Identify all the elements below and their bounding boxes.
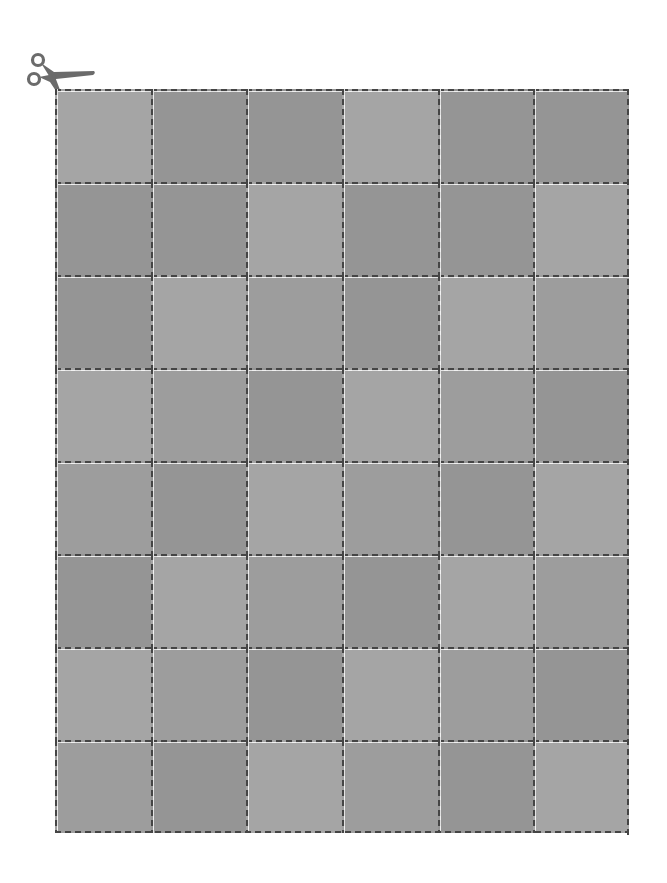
grid-cell — [55, 554, 151, 647]
grid-cell — [438, 89, 534, 182]
grid-cell — [533, 740, 629, 833]
grid-cell — [342, 182, 438, 275]
grid-cell — [246, 182, 342, 275]
grid-cell — [342, 89, 438, 182]
grid-cell — [55, 182, 151, 275]
grid-cell — [55, 461, 151, 554]
grid-cell — [151, 554, 247, 647]
grid-cell — [533, 89, 629, 182]
grid-cell — [533, 275, 629, 368]
grid-cell — [342, 647, 438, 740]
grid-cell — [151, 647, 247, 740]
grid-bottom-edge — [55, 831, 629, 833]
grid-cell — [55, 740, 151, 833]
grid-cell — [342, 368, 438, 461]
grid-cell — [342, 740, 438, 833]
grid-cell — [246, 368, 342, 461]
grid-cell — [151, 182, 247, 275]
grid-cell — [151, 368, 247, 461]
grid-cell — [55, 275, 151, 368]
grid-cell — [533, 368, 629, 461]
scissors-icon — [24, 52, 96, 92]
grid-cell — [533, 182, 629, 275]
grid-cell — [438, 275, 534, 368]
grid-cell — [151, 740, 247, 833]
grid-cell — [342, 275, 438, 368]
grid-cell — [55, 368, 151, 461]
grid-right-edge — [627, 89, 629, 835]
grid-cell — [438, 182, 534, 275]
grid-cell — [533, 461, 629, 554]
grid-cell — [533, 647, 629, 740]
grid-cell — [246, 275, 342, 368]
grid-cell — [151, 275, 247, 368]
cut-grid — [55, 89, 629, 833]
grid-cell — [246, 89, 342, 182]
grid-cell — [342, 461, 438, 554]
grid-cell — [151, 89, 247, 182]
grid-cell — [246, 461, 342, 554]
grid-cell — [151, 461, 247, 554]
grid-cell — [246, 647, 342, 740]
grid-cell — [438, 368, 534, 461]
grid-cell — [55, 647, 151, 740]
grid-cell — [342, 554, 438, 647]
grid-cell — [55, 89, 151, 182]
grid-cell — [533, 554, 629, 647]
grid-cell — [246, 554, 342, 647]
grid-cell — [438, 554, 534, 647]
grid-cell — [438, 740, 534, 833]
grid-cell — [246, 740, 342, 833]
grid-cell — [438, 461, 534, 554]
grid-cell — [438, 647, 534, 740]
